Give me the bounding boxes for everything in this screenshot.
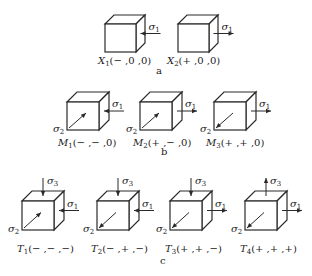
cube-caption: M3(+ ,+ ,0) xyxy=(205,137,264,150)
group-b: σ1σ2M1(− ,− ,0)σ1σ2M2(+ ,− ,0)σ1σ2M3(+ ,… xyxy=(53,92,271,157)
sigma3-label: σ3 xyxy=(47,175,58,188)
group-label: a xyxy=(156,65,162,76)
cube-T2: σ1σ2σ3T2(− ,+ ,−) xyxy=(83,175,154,256)
sigma1-label: σ1 xyxy=(185,98,196,111)
sigma1-label: σ1 xyxy=(290,198,301,211)
cube-caption: T2(− ,+ ,−) xyxy=(91,243,148,256)
sigma3-label: σ3 xyxy=(122,175,133,188)
cube-front-face xyxy=(105,24,136,52)
cube-X1: σ1X1(− ,0 ,0) xyxy=(97,15,161,68)
sigma1-label: σ1 xyxy=(222,21,233,34)
cube-M1: σ1σ2M1(− ,− ,0) xyxy=(53,92,124,150)
cube-caption: X1(− ,0 ,0) xyxy=(97,55,151,68)
sigma2-label: σ2 xyxy=(126,123,137,136)
group-label: b xyxy=(161,146,167,157)
cube-T3: σ1σ2σ3T3(+ ,+ ,−) xyxy=(156,175,227,256)
sigma1-label: σ1 xyxy=(215,198,226,211)
sigma2-label: σ2 xyxy=(53,123,64,136)
cube-M2: σ1σ2M2(+ ,− ,0) xyxy=(126,92,197,150)
sigma1-label: σ1 xyxy=(67,198,78,211)
sigma1-label: σ1 xyxy=(149,21,160,34)
cube-caption: T1(− ,− ,−) xyxy=(17,243,74,256)
cube-caption: M1(− ,− ,0) xyxy=(57,137,116,150)
cube-caption: X2(+ ,0 ,0) xyxy=(166,55,220,68)
sigma1-label: σ1 xyxy=(142,198,153,211)
cube-front-face xyxy=(178,24,209,52)
group-label: c xyxy=(160,255,166,266)
cube-T4: σ1σ2σ3T4(+ ,+ ,+) xyxy=(231,175,302,256)
cube-M3: σ1σ2M3(+ ,+ ,0) xyxy=(200,92,271,150)
diagram-canvas: σ1X1(− ,0 ,0)σ1X2(+ ,0 ,0)aσ1σ2M1(− ,− ,… xyxy=(0,0,312,276)
sigma2-label: σ2 xyxy=(8,223,19,236)
sigma2-label: σ2 xyxy=(200,123,211,136)
cube-caption: T4(+ ,+ ,+) xyxy=(240,243,297,256)
sigma2-label: σ2 xyxy=(83,223,94,236)
group-a: σ1X1(− ,0 ,0)σ1X2(+ ,0 ,0)a xyxy=(97,15,234,76)
sigma3-label: σ3 xyxy=(195,175,206,188)
cube-X2: σ1X2(+ ,0 ,0) xyxy=(166,15,234,68)
sigma3-arrowhead-icon xyxy=(264,178,268,183)
sigma3-label: σ3 xyxy=(270,175,281,188)
sigma2-label: σ2 xyxy=(231,223,242,236)
stress-state-diagram: σ1X1(− ,0 ,0)σ1X2(+ ,0 ,0)aσ1σ2M1(− ,− ,… xyxy=(0,0,312,276)
sigma1-label: σ1 xyxy=(259,98,270,111)
group-c: σ1σ2σ3T1(− ,− ,−)σ1σ2σ3T2(− ,+ ,−)σ1σ2σ3… xyxy=(8,175,302,266)
cube-T1: σ1σ2σ3T1(− ,− ,−) xyxy=(8,175,79,256)
sigma1-label: σ1 xyxy=(112,98,123,111)
cube-caption: T3(+ ,+ ,−) xyxy=(165,243,222,256)
sigma2-label: σ2 xyxy=(156,223,167,236)
